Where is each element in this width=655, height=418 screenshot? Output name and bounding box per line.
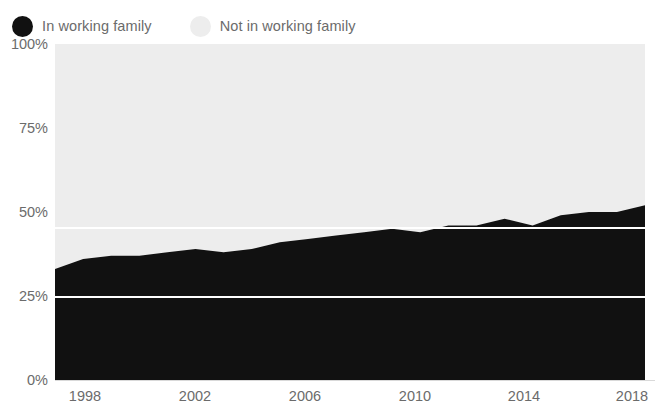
legend-label: Not in working family [220,18,356,34]
plot-area [55,44,645,380]
band-rule-45 [55,227,645,229]
x-axis: 1998 2002 2006 2010 2014 2018 [0,388,655,412]
y-axis-tick-25: 25% [19,288,48,304]
y-axis-tick-75: 75% [19,120,48,136]
x-axis-tick-2006: 2006 [289,388,321,404]
band-rule-25 [55,296,645,298]
legend-item-not-in-working-family[interactable]: Not in working family [190,16,356,37]
y-axis-tick-50: 50% [19,204,48,220]
x-axis-line [55,380,655,381]
series-layer [55,44,645,380]
x-axis-tick-2014: 2014 [508,388,540,404]
x-axis-tick-2002: 2002 [179,388,211,404]
legend-label: In working family [42,18,152,34]
x-axis-tick-2018: 2018 [616,388,648,404]
y-axis-tick-100: 100% [11,36,48,52]
y-axis-tick-0: 0% [27,372,48,388]
area-chart: In working family Not in working family … [0,0,655,418]
x-axis-tick-2010: 2010 [399,388,431,404]
chart-legend: In working family Not in working family [12,14,356,38]
x-axis-tick-1998: 1998 [69,388,101,404]
filled-circle-icon [190,16,211,37]
y-axis: 100% 75% 50% 25% 0% [0,0,48,418]
